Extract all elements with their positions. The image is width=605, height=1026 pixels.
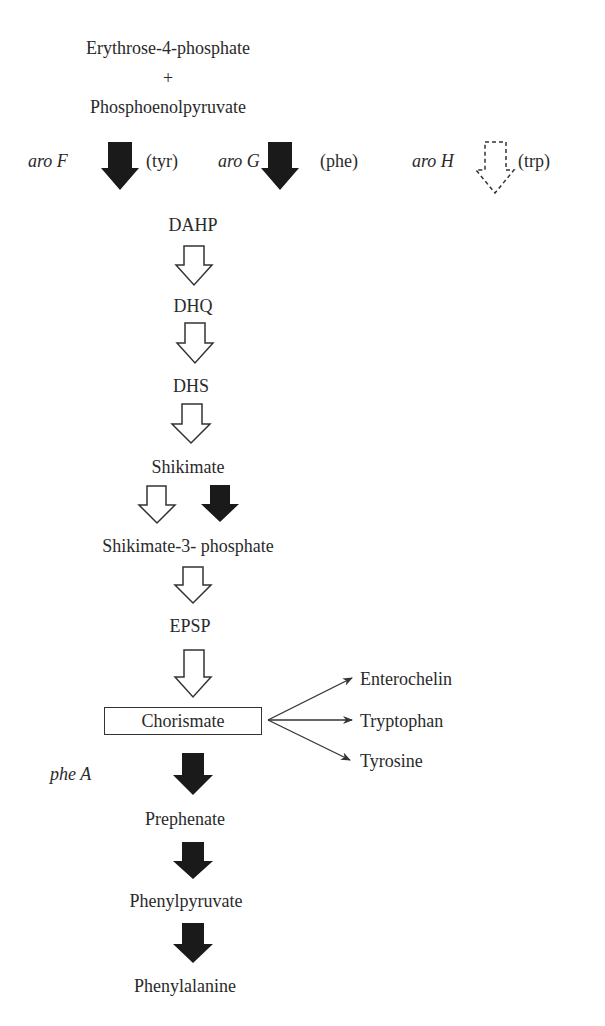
- regulator-tyr: (tyr): [146, 152, 178, 170]
- filled-arrow-icon: [201, 485, 239, 522]
- intermediate-phenylalanine: Phenylalanine: [134, 977, 236, 995]
- open-arrow-icon: [177, 323, 213, 363]
- branch-product-tryptophan: Tryptophan: [360, 712, 443, 730]
- substrate-erythrose-4-phosphate: Erythrose-4-phosphate: [86, 39, 250, 57]
- filled-arrow-icon: [173, 923, 213, 963]
- intermediate-dhs: DHS: [173, 377, 209, 395]
- open-arrow-icon: [139, 486, 175, 523]
- gene-label-aroG: aro G: [218, 152, 260, 170]
- intermediate-chorismate: Chorismate: [142, 712, 225, 730]
- pathway-arrows: [0, 0, 605, 1026]
- open-arrow-icon: [175, 567, 211, 603]
- branch-arrow-enterochelin-icon: [268, 678, 352, 720]
- branch-arrow-tyrosine-icon: [268, 720, 350, 760]
- plus-sign: +: [163, 69, 173, 87]
- gene-label-aroH: aro H: [412, 152, 454, 170]
- regulator-trp: (trp): [518, 152, 550, 170]
- aroF-filled-arrow-icon: [101, 142, 139, 190]
- intermediate-shikimate: Shikimate: [152, 458, 225, 476]
- gene-label-pheA: phe A: [50, 765, 91, 783]
- filled-arrow-icon: [173, 842, 213, 879]
- open-arrow-icon: [176, 246, 212, 285]
- intermediate-epsp: EPSP: [169, 617, 210, 635]
- intermediate-dahp: DAHP: [168, 216, 217, 234]
- open-arrow-icon: [172, 404, 210, 443]
- substrate-phosphoenolpyruvate: Phosphoenolpyruvate: [90, 98, 246, 116]
- gene-label-aroF: aro F: [28, 152, 68, 170]
- branch-product-enterochelin: Enterochelin: [360, 670, 452, 688]
- aroH-dashed-arrow-icon: [476, 142, 514, 193]
- intermediate-phenylpyruvate: Phenylpyruvate: [130, 892, 243, 910]
- pheA-filled-arrow-icon: [173, 753, 213, 795]
- intermediate-shikimate-3-phosphate: Shikimate-3- phosphate: [102, 537, 273, 555]
- branch-product-tyrosine: Tyrosine: [360, 752, 423, 770]
- intermediate-dhq: DHQ: [174, 297, 213, 315]
- intermediate-prephenate: Prephenate: [145, 810, 225, 828]
- regulator-phe: (phe): [320, 152, 358, 170]
- open-arrow-icon: [175, 650, 211, 697]
- aroG-filled-arrow-icon: [261, 142, 299, 190]
